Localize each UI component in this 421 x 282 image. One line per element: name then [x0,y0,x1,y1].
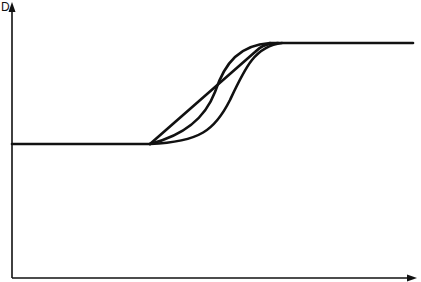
y-axis-arrowhead-icon [9,2,16,12]
x-axis-arrowhead-icon [407,275,417,282]
step-transition-diagram [0,0,421,282]
curve-s-late [150,43,282,144]
curves [12,43,413,144]
